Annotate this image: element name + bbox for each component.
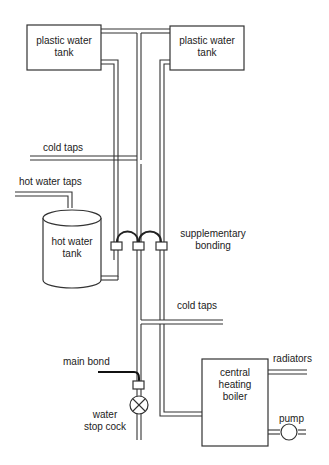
tank-link-pipe [101,29,170,33]
stop-cock-label-line2: stop cock [80,421,130,433]
stop-cock-label: water stop cock [80,409,130,433]
main-bond-label: main bond [63,356,110,368]
boiler-label-line1: central [202,367,268,379]
hot-water-tank-label: hot water tank [43,236,101,260]
boiler-label-line2: heating [202,379,268,391]
supplementary-bonding-label: supplementary bonding [178,228,248,252]
hot-water-tank-outlet-pipe [101,272,118,280]
pump-label: pump [279,413,304,425]
boiler-label-line3: boiler [202,391,268,403]
radiators-pipe [268,370,307,374]
pump-icon [281,424,297,440]
stop-cock-label-line1: water [80,409,130,421]
radiators-label: radiators [273,353,312,365]
plumbing-bonding-diagram [0,0,329,465]
right-tank-label-line1: plastic water [170,35,244,47]
left-tank-feed-pipe [101,60,118,272]
supplementary-bonding [111,232,167,251]
water-stop-cock-icon [130,396,148,414]
hot-water-taps-label: hot water taps [19,176,82,188]
left-tank-label: plastic water tank [27,35,101,59]
boiler-label: central heating boiler [202,367,268,403]
right-tank-label: plastic water tank [170,35,244,59]
left-tank-label-line2: tank [27,47,101,59]
hot-water-tank-label-line2: tank [43,248,101,260]
supplementary-bonding-label-line2: bonding [178,240,248,252]
upper-cold-taps-label: cold taps [43,142,83,154]
lower-cold-taps-pipe [141,320,223,324]
lower-cold-taps-label: cold taps [177,300,217,312]
upper-cold-taps-pipe [30,156,137,160]
right-tank-label-line2: tank [170,47,244,59]
left-tank-label-line1: plastic water [27,35,101,47]
hot-water-tank-label-line1: hot water [43,236,101,248]
hot-water-taps-pipe [15,192,72,208]
supplementary-bonding-label-line1: supplementary [178,228,248,240]
